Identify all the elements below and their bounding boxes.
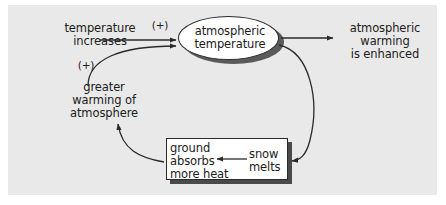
label-ground-absorbs-more-heat: ground absorbs more heat (170, 142, 248, 181)
label-greater-warming-of-atmosphere: greater warming of atmosphere (56, 81, 152, 120)
label-temperature-increases: temperature increases (52, 22, 148, 48)
label-atmospheric-warming-is-enhanced: atmospheric warming is enhanced (337, 22, 433, 61)
edge-ground-to-greater-warming (118, 124, 164, 162)
label-sign-plus-bottom: (+) (72, 60, 100, 72)
label-snow-melts: snow melts (249, 148, 289, 174)
edge-atmosphere-to-snow-melts (279, 45, 314, 161)
label-sign-plus-top: (+) (146, 20, 174, 32)
label-atmospheric-temperature: atmospheric temperature (183, 25, 277, 51)
diagram-stage: temperature increases (+) atmospheric te… (0, 0, 446, 205)
